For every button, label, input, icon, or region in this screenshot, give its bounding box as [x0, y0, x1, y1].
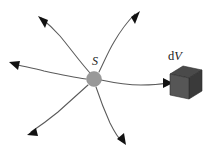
physics-figure: S dV: [0, 0, 212, 156]
ray-down-right-path: [96, 87, 122, 141]
ray-down-right-arrowhead: [117, 133, 126, 145]
volume-element-label: dV: [168, 50, 182, 63]
ray-left: [9, 61, 86, 79]
ray-left-arrowhead: [9, 61, 20, 70]
ray-up-left: [38, 16, 90, 73]
volume-element-cube: [170, 66, 202, 99]
cube-front-face: [170, 74, 189, 99]
figure-canvas: [0, 0, 212, 156]
ray-right-to-volume-path: [101, 80, 167, 85]
ray-left-path: [14, 64, 86, 79]
ray-down-left: [27, 85, 88, 136]
ray-up-left-arrowhead: [38, 16, 48, 28]
source-label: S: [92, 55, 98, 67]
ray-up-left-path: [41, 18, 90, 73]
ray-down-left-arrowhead: [27, 128, 38, 136]
ray-up-right: [99, 11, 140, 72]
ray-right-to-volume: [101, 78, 173, 88]
volume-label-v: V: [174, 49, 182, 63]
ray-up-right-path: [99, 14, 135, 72]
ray-down-left-path: [31, 85, 88, 132]
ray-down-right: [96, 87, 126, 145]
ray-up-right-arrowhead: [131, 11, 140, 24]
point-source-dot: [87, 72, 102, 87]
